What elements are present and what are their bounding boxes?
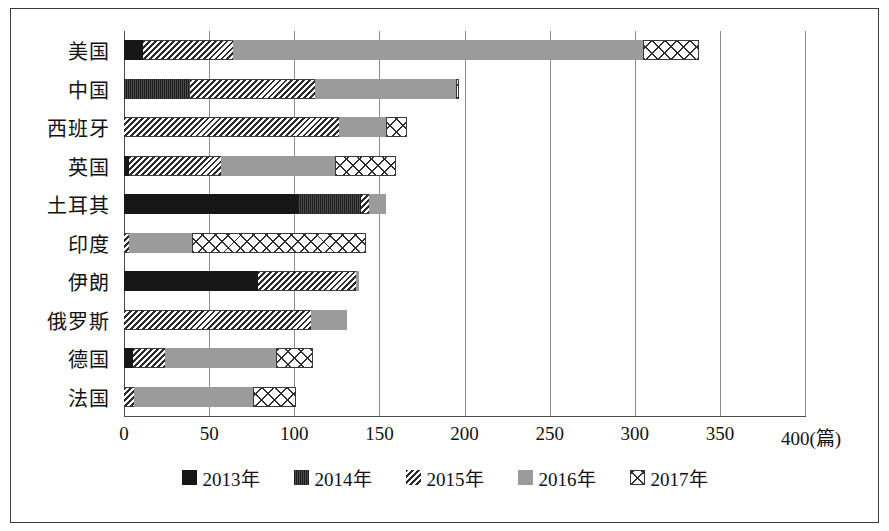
legend-swatch-icon-2016年 [518, 470, 533, 485]
category-label-9: 法国 [68, 382, 110, 411]
bar-segment-2015年 [124, 117, 339, 137]
bar-row: 伊朗 [124, 262, 805, 301]
bar-segment-2017年 [276, 348, 313, 368]
bar-segment-2016年 [129, 233, 192, 253]
bar-segment-2013年 [124, 40, 143, 60]
bar-segment-2016年 [356, 271, 359, 291]
bar-segment-2013年 [124, 348, 133, 368]
legend-label: 2017年 [651, 464, 708, 491]
legend-item-2015年[interactable]: 2015年 [406, 464, 484, 491]
legend-label: 2014年 [315, 464, 372, 491]
stacked-bar [124, 156, 396, 176]
stacked-bar [124, 387, 296, 407]
bar-segment-2013年 [124, 271, 258, 291]
x-tick-label-50: 50 [200, 423, 219, 445]
bar-segment-2016年 [311, 310, 347, 330]
bar-segment-2015年 [133, 348, 165, 368]
bar-segment-2016年 [221, 156, 335, 176]
legend-swatch-icon-2013年 [182, 470, 197, 485]
x-tick-label-300: 300 [621, 423, 650, 445]
bar-row: 印度 [124, 224, 805, 263]
legend-item-2016年[interactable]: 2016年 [518, 464, 596, 491]
category-label-3: 英国 [68, 151, 110, 180]
bar-row: 美国 [124, 31, 805, 70]
x-axis-line [124, 416, 806, 417]
x-tick-label-100: 100 [280, 423, 309, 445]
category-label-4: 土耳其 [47, 190, 110, 219]
chart-frame: 美国中国西班牙英国土耳其印度伊朗俄罗斯德国法国 0501001502002503… [10, 8, 879, 523]
chart-legend: 2013年2014年2015年2016年2017年 [11, 464, 878, 491]
bar-row: 西班牙 [124, 108, 805, 147]
stacked-bar [124, 310, 347, 330]
x-tick-label-350: 350 [706, 423, 735, 445]
bar-segment-2015年 [258, 271, 355, 291]
legend-swatch-icon-2014年 [294, 470, 309, 485]
x-tick-label-200: 200 [450, 423, 479, 445]
stacked-bar [124, 79, 459, 99]
bar-segment-2016年 [369, 194, 386, 214]
bar-segment-2017年 [192, 233, 366, 253]
bar-segment-2015年 [129, 156, 221, 176]
category-label-7: 俄罗斯 [47, 305, 110, 334]
bar-segment-2015年 [124, 310, 311, 330]
stacked-bar [124, 117, 407, 137]
bar-segment-2014年 [298, 194, 361, 214]
bar-segment-2015年 [143, 40, 233, 60]
bar-row: 英国 [124, 147, 805, 186]
x-tick-label-400: 400(篇) [781, 423, 841, 450]
bar-row: 俄罗斯 [124, 301, 805, 340]
legend-label: 2015年 [427, 464, 484, 491]
bar-segment-2017年 [456, 79, 459, 99]
legend-item-2013年[interactable]: 2013年 [182, 464, 260, 491]
category-label-2: 西班牙 [47, 113, 110, 142]
bar-segment-2016年 [233, 40, 643, 60]
bar-row: 土耳其 [124, 185, 805, 224]
stacked-bar [124, 348, 313, 368]
x-axis-tick-labels: 050100150200250300350400(篇) [124, 419, 806, 449]
legend-label: 2013年 [203, 464, 260, 491]
x-tick-label-0: 0 [119, 423, 129, 445]
category-label-6: 伊朗 [68, 267, 110, 296]
stacked-bar [124, 40, 699, 60]
gridline-400 [805, 31, 806, 416]
legend-item-2017年[interactable]: 2017年 [630, 464, 708, 491]
category-label-1: 中国 [68, 74, 110, 103]
bar-segment-2015年 [124, 387, 134, 407]
x-tick-label-250: 250 [535, 423, 564, 445]
category-label-8: 德国 [68, 344, 110, 373]
bar-segment-2017年 [253, 387, 296, 407]
bar-segment-2014年 [124, 79, 190, 99]
bar-row: 中国 [124, 70, 805, 109]
bar-segment-2015年 [190, 79, 314, 99]
x-tick-label-150: 150 [365, 423, 394, 445]
bar-segment-2015年 [361, 194, 370, 214]
bar-segment-2013年 [124, 194, 298, 214]
bar-segment-2016年 [339, 117, 387, 137]
legend-label: 2016年 [539, 464, 596, 491]
bar-segment-2016年 [315, 79, 456, 99]
category-label-0: 美国 [68, 36, 110, 65]
legend-swatch-icon-2017年 [630, 470, 645, 485]
stacked-bar [124, 233, 366, 253]
plot-area: 美国中国西班牙英国土耳其印度伊朗俄罗斯德国法国 [124, 31, 805, 416]
bar-segment-2016年 [165, 348, 276, 368]
bar-segment-2017年 [386, 117, 406, 137]
bar-row: 法国 [124, 378, 805, 417]
bar-row: 德国 [124, 339, 805, 378]
legend-item-2014年[interactable]: 2014年 [294, 464, 372, 491]
category-label-5: 印度 [68, 228, 110, 257]
bar-segment-2017年 [335, 156, 396, 176]
legend-swatch-icon-2015年 [406, 470, 421, 485]
bar-segment-2017年 [643, 40, 699, 60]
stacked-bar [124, 271, 359, 291]
stacked-bar [124, 194, 386, 214]
bar-segment-2016年 [134, 387, 253, 407]
